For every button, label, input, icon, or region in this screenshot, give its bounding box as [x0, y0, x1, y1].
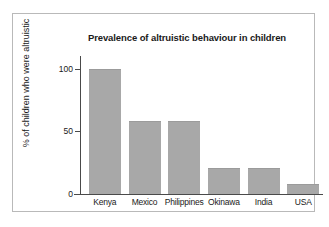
chart-title: Prevalence of altruistic behaviour in ch… — [63, 32, 311, 43]
y-tick-label: 0 — [51, 190, 73, 199]
bar-slot — [164, 56, 204, 194]
y-tick-label: 50 — [51, 127, 73, 136]
x-tick-label: USA — [283, 197, 323, 207]
bars-group — [81, 56, 323, 194]
x-tick-label: Mexico — [125, 197, 165, 207]
y-tick-label: 100 — [51, 65, 73, 74]
bar-slot — [283, 56, 323, 194]
bar[interactable] — [129, 121, 161, 194]
bar[interactable] — [208, 168, 240, 194]
bar[interactable] — [89, 69, 121, 194]
bar-slot — [204, 56, 244, 194]
x-tick-label: Okinawa — [204, 197, 244, 207]
x-axis-labels: KenyaMexicoPhilippinesOkinawaIndiaUSA — [81, 197, 323, 207]
x-tick-label: Kenya — [85, 197, 125, 207]
bar[interactable] — [168, 121, 200, 194]
x-axis-line — [74, 194, 323, 195]
figure-frame: Prevalence of altruistic behaviour in ch… — [12, 13, 315, 212]
y-axis-title: % of children who were altruistic — [21, 18, 35, 148]
bar[interactable] — [287, 184, 319, 194]
bar-slot — [244, 56, 284, 194]
x-tick-label: India — [244, 197, 284, 207]
y-tick-mark — [75, 131, 81, 132]
y-tick-mark — [75, 69, 81, 70]
bar-slot — [85, 56, 125, 194]
bar-slot — [125, 56, 165, 194]
y-tick-mark — [75, 194, 81, 195]
bar[interactable] — [248, 168, 280, 194]
x-tick-label: Philippines — [164, 197, 204, 207]
